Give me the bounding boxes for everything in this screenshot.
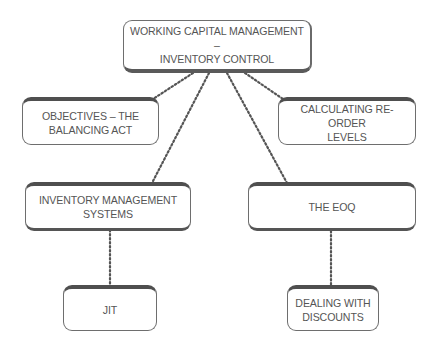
- node-inventory-management-systems: INVENTORY MANAGEMENT SYSTEMS: [25, 182, 191, 231]
- node-label-line1: DEALING WITH: [295, 296, 370, 310]
- node-jit: JIT: [63, 285, 157, 331]
- node-label-line2: INVENTORY CONTROL: [130, 52, 304, 66]
- node-objectives-balancing-act: OBJECTIVES – THE BALANCING ACT: [22, 97, 159, 145]
- node-label-line2: DISCOUNTS: [295, 310, 370, 324]
- node-working-capital-inventory-control: WORKING CAPITAL MANAGEMENT – INVENTORY C…: [123, 20, 312, 73]
- node-dealing-with-discounts: DEALING WITH DISCOUNTS: [287, 285, 379, 331]
- node-label-line1: WORKING CAPITAL MANAGEMENT –: [130, 24, 304, 52]
- node-the-eoq: THE EOQ: [248, 182, 416, 231]
- connector-root-ims: [152, 73, 209, 183]
- node-label-line2: LEVELS: [285, 130, 409, 144]
- node-label-line1: CALCULATING RE-ORDER: [285, 102, 409, 130]
- connector-root-objectives: [153, 73, 193, 99]
- node-label-line2: SYSTEMS: [39, 207, 177, 221]
- connector-root-reorder: [245, 73, 283, 99]
- node-label-line2: BALANCING ACT: [42, 123, 139, 137]
- node-label-line1: OBJECTIVES – THE: [42, 109, 139, 123]
- node-label-line1: JIT: [103, 303, 117, 317]
- concept-map: WORKING CAPITAL MANAGEMENT – INVENTORY C…: [0, 0, 437, 352]
- node-label-line1: THE EOQ: [309, 200, 356, 214]
- node-label-line1: INVENTORY MANAGEMENT: [39, 193, 177, 207]
- node-calculating-reorder-levels: CALCULATING RE-ORDER LEVELS: [278, 97, 416, 145]
